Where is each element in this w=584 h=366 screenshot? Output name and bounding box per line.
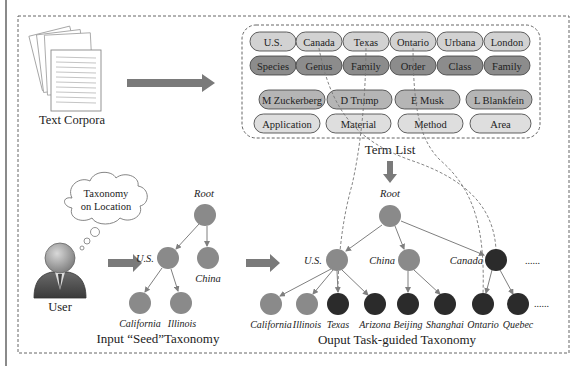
document-stack-icon (29, 26, 101, 111)
out-node-shanghai (434, 293, 456, 315)
term-pill: E Musk (395, 90, 460, 109)
out-node-china (398, 249, 420, 271)
text-corpora-label: Text Corpora (39, 113, 106, 127)
taxonomy-diagram: Text Corpora U.S.CanadaTexasOntarioUrban… (0, 0, 584, 366)
term-pill: London (484, 32, 530, 51)
term-list-label: Term List (365, 142, 416, 157)
out-label-texas: Texas (327, 319, 350, 330)
out-label-china: China (369, 255, 395, 266)
seed-taxonomy-title: Input “Seed”Taxonomy (97, 331, 220, 346)
term-pill-label: Canada (303, 37, 335, 48)
term-pill-label: U.S. (264, 37, 283, 48)
term-pill: D Trump (327, 90, 392, 109)
right-arrow-icon (246, 254, 280, 272)
seed-node-illinois (170, 292, 192, 314)
term-pill-label: D Trump (340, 95, 378, 106)
out-node-ontario (472, 293, 494, 315)
down-arrow-icon (383, 161, 397, 183)
term-pill-label: Genus (306, 61, 333, 72)
seed-label-us: U.S. (136, 253, 154, 264)
out-ellipsis-row2: ...... (525, 255, 540, 266)
term-pill-label: L Blankfein (474, 95, 525, 106)
user-avatar-icon (34, 243, 86, 298)
seed-node-california (129, 292, 151, 314)
term-list-pills: U.S.CanadaTexasOntarioUrbanaLondonSpecie… (250, 32, 532, 133)
thought-line-1: Taxonomy (84, 188, 130, 199)
out-node-beijing (397, 293, 419, 315)
term-pill-label: Material (341, 119, 377, 130)
out-label-illinois: Illinois (292, 319, 321, 330)
term-pill-label: Family (492, 61, 523, 72)
term-pill-label: Class (449, 61, 472, 72)
user-label: User (48, 300, 72, 314)
out-label-arizona: Arizona (358, 319, 391, 330)
seed-label-illinois: Illinois (167, 318, 196, 329)
term-pill-label: Area (490, 119, 511, 130)
term-pill: Species (250, 56, 296, 75)
term-pill: U.S. (250, 32, 296, 51)
out-node-texas (327, 293, 349, 315)
out-label-shanghai: Shanghai (426, 319, 464, 330)
out-node-california (260, 293, 282, 315)
term-pill-label: London (491, 37, 524, 48)
out-label-ontario: Ontario (467, 319, 499, 330)
output-taxonomy-title: Ouput Task-guided Taxonomy (318, 332, 477, 347)
out-label-beijing: Beijing (394, 319, 423, 330)
term-pill: L Blankfein (466, 90, 532, 109)
seed-label-california: California (119, 318, 161, 329)
out-label-root: Root (379, 188, 401, 199)
out-label-canada: Canada (450, 255, 483, 266)
out-node-canada (485, 249, 507, 271)
term-pill: Urbana (437, 32, 483, 51)
term-pill-label: Application (262, 119, 312, 130)
out-node-illinois (296, 293, 318, 315)
out-node-arizona (364, 293, 386, 315)
seed-node-root (194, 204, 216, 226)
right-arrow-icon (127, 74, 215, 92)
thought-line-2: on Location (81, 201, 132, 212)
seed-node-china (197, 247, 219, 269)
seed-label-china: China (195, 273, 221, 284)
out-node-root (379, 205, 401, 227)
seed-label-root: Root (193, 188, 215, 199)
term-pill-label: Family (351, 61, 382, 72)
out-node-us (326, 249, 348, 271)
term-pill: Family (484, 56, 530, 75)
term-pill: M Zuckerberg (259, 90, 325, 109)
term-pill-label: M Zuckerberg (262, 95, 323, 106)
out-label-california: California (250, 319, 292, 330)
term-pill: Class (437, 56, 483, 75)
term-pill: Method (398, 114, 463, 133)
term-pill-label: Urbana (445, 37, 476, 48)
out-ellipsis-row3: ...... (534, 298, 549, 309)
out-label-quebec: Quebec (503, 319, 534, 330)
seed-node-us (157, 247, 179, 269)
out-node-quebec (507, 293, 529, 315)
term-pill: Application (254, 114, 320, 133)
term-pill: Area (470, 114, 531, 133)
out-label-us: U.S. (304, 255, 322, 266)
term-pill-label: Species (257, 61, 289, 72)
term-pill: Genus (296, 56, 342, 75)
